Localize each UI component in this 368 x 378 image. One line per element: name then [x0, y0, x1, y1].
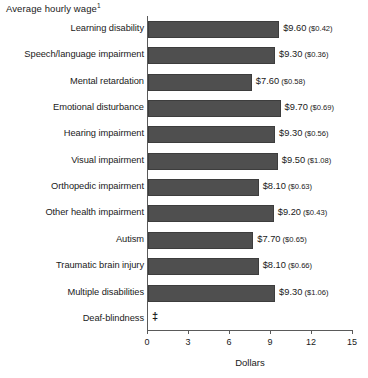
bar-value-label: $9.20 ($0.43) [278, 207, 327, 217]
bar-row: Learning disability$9.60 ($0.42) [0, 19, 368, 45]
category-label: Hearing impairment [64, 128, 144, 138]
bar-value-amount: $8.10 [263, 181, 286, 191]
bar-value-standard-error: ($0.66) [286, 261, 312, 270]
category-label: Orthopedic impairment [51, 181, 144, 191]
bar-row: Emotional disturbance$9.70 ($0.69) [0, 98, 368, 124]
bar-value-standard-error: ($1.08) [305, 156, 331, 165]
bar-value-label: $8.10 ($0.63) [263, 181, 312, 191]
bar [148, 74, 252, 91]
bar-value-amount: $9.30 [279, 287, 302, 297]
bar-value-amount: $9.30 [279, 128, 302, 138]
bar-row: Multiple disabilities$9.30 ($1.06) [0, 283, 368, 309]
bar-value-amount: $9.50 [282, 155, 305, 165]
bar-value-amount: $7.60 [256, 76, 279, 86]
category-label: Other health impairment [45, 207, 144, 217]
x-tick-label: 3 [173, 337, 203, 347]
bar [148, 179, 259, 196]
bar-row: Hearing impairment$9.30 ($0.56) [0, 124, 368, 150]
bar-row: Other health impairment$9.20 ($0.43) [0, 203, 368, 229]
bar-value-standard-error: ($1.06) [302, 288, 328, 297]
category-label: Deaf-blindness [83, 313, 144, 323]
plot-area: Learning disability$9.60 ($0.42)Speech/l… [0, 0, 368, 378]
bar [148, 47, 275, 64]
bar-value-label: $9.30 ($0.56) [279, 128, 328, 138]
bar-value-label: $9.50 ($1.08) [282, 155, 331, 165]
bar-chart: Average hourly wage1 Learning disability… [0, 0, 368, 378]
suppressed-value-marker: ‡ [152, 310, 158, 322]
bar-row: Mental retardation$7.60 ($0.58) [0, 72, 368, 98]
category-label: Traumatic brain injury [56, 260, 144, 270]
bar-value-label: $7.60 ($0.58) [256, 76, 305, 86]
x-tick-label: 9 [255, 337, 285, 347]
bar-value-amount: $8.10 [263, 260, 286, 270]
category-label: Mental retardation [70, 76, 144, 86]
bar-row: Traumatic brain injury$8.10 ($0.66) [0, 256, 368, 282]
bar-value-amount: $9.30 [279, 49, 302, 59]
x-tick-mark [352, 330, 353, 334]
bar-value-label: $9.60 ($0.42) [283, 23, 332, 33]
bar-value-standard-error: ($0.36) [302, 50, 328, 59]
x-tick-mark [147, 330, 148, 334]
bar [148, 285, 275, 302]
bar [148, 258, 259, 275]
bar [148, 205, 274, 222]
bar-value-label: $9.30 ($1.06) [279, 287, 328, 297]
x-tick-mark [270, 330, 271, 334]
bar [148, 126, 275, 143]
bar-value-amount: $9.70 [285, 102, 308, 112]
bar-value-standard-error: ($0.58) [279, 77, 305, 86]
bar-value-label: $7.70 ($0.65) [257, 234, 306, 244]
bar [148, 21, 279, 38]
bar-row: Visual impairment$9.50 ($1.08) [0, 151, 368, 177]
category-label: Autism [116, 234, 144, 244]
category-label: Speech/language impairment [24, 49, 144, 59]
category-label: Emotional disturbance [53, 102, 144, 112]
bar-value-standard-error: ($0.56) [302, 129, 328, 138]
x-tick-label: 6 [214, 337, 244, 347]
bar-row: Deaf-blindness‡ [0, 309, 368, 335]
bar-value-standard-error: ($0.43) [301, 208, 327, 217]
x-tick-mark [229, 330, 230, 334]
bar-value-standard-error: ($0.42) [306, 24, 332, 33]
bar-value-label: $9.30 ($0.36) [279, 49, 328, 59]
x-axis-title: Dollars [147, 357, 353, 368]
x-tick-mark [311, 330, 312, 334]
bar-value-amount: $7.70 [257, 234, 280, 244]
bar-value-label: $8.10 ($0.66) [263, 260, 312, 270]
bar-value-amount: $9.60 [283, 23, 306, 33]
bar-value-standard-error: ($0.69) [308, 103, 334, 112]
category-label: Multiple disabilities [68, 287, 144, 297]
x-tick-label: 15 [337, 337, 367, 347]
bar [148, 232, 253, 249]
bar [148, 100, 281, 117]
x-tick-label: 0 [132, 337, 162, 347]
bar [148, 153, 278, 170]
bar-row: Autism$7.70 ($0.65) [0, 230, 368, 256]
bar-value-label: $9.70 ($0.69) [285, 102, 334, 112]
x-tick-mark [188, 330, 189, 334]
x-tick-label: 12 [296, 337, 326, 347]
bar-row: Orthopedic impairment$8.10 ($0.63) [0, 177, 368, 203]
category-label: Learning disability [71, 23, 144, 33]
category-label: Visual impairment [71, 155, 144, 165]
bar-value-standard-error: ($0.65) [280, 235, 306, 244]
bar-value-standard-error: ($0.63) [286, 182, 312, 191]
bar-row: Speech/language impairment$9.30 ($0.36) [0, 45, 368, 71]
bar-value-amount: $9.20 [278, 207, 301, 217]
